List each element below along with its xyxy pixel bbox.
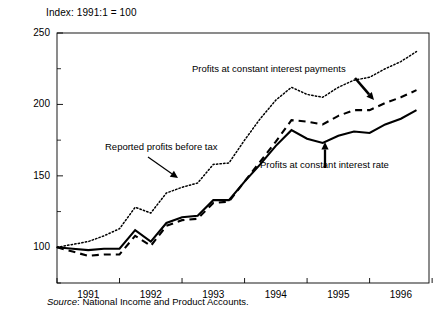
y-tick-label: 200 [16,98,50,109]
arrow-to-solid-line-left [148,157,178,178]
x-tick-label: 1996 [378,289,424,300]
series-group [57,52,416,256]
y-tick-label: 250 [16,27,50,38]
series-line-solid [57,110,416,250]
y-tick-label: 100 [16,241,50,252]
annotation-reported-profits-before-tax: Reported profits before tax [105,141,217,152]
arrow-to-dashed-line [355,78,374,100]
x-tick-label: 1995 [315,289,361,300]
series-line-dashed [57,90,416,256]
chart-figure: Index: 1991:1 = 100 250200150100 1991199… [0,0,448,314]
y-tick-label: 150 [16,170,50,181]
source-label: Source [47,296,77,307]
source-value: National Income and Product Accounts. [82,296,248,307]
annotation-constant-interest-payments: Profits at constant interest payments [192,63,346,74]
x-tick-label: 1994 [253,289,299,300]
annotation-constant-interest-rate: Profits at constant interest rate [260,159,389,170]
source-note: Source: National Income and Product Acco… [47,296,249,307]
chart-plot-svg [0,0,448,314]
